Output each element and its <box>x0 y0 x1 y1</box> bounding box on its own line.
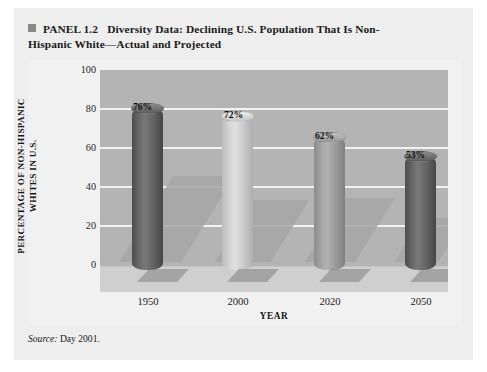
y-tick-100: 100 <box>70 64 96 75</box>
y-axis-ticks: 100 80 60 40 20 0 <box>64 70 96 292</box>
x-tick-2050: 2050 <box>391 296 451 307</box>
panel-number: PANEL 1.2 <box>43 23 98 35</box>
source-value: Day 2001. <box>57 333 99 344</box>
data-label-2000: 72% <box>224 109 243 120</box>
y-tick-40: 40 <box>70 181 96 192</box>
caption-line-1: Diversity Data: Declining U.S. Populatio… <box>107 23 380 35</box>
bar-2020[interactable] <box>314 137 345 270</box>
chart-figure: PERCENTAGE OF NON-HISPANIC WHITES IN U.S… <box>28 60 462 325</box>
data-label-2020: 62% <box>315 130 334 141</box>
source-note: Source: Day 2001. <box>28 333 100 344</box>
filled-square-icon <box>28 24 36 32</box>
panel-caption: PANEL 1.2Diversity Data: Declining U.S. … <box>28 22 462 52</box>
y-tick-60: 60 <box>70 142 96 153</box>
y-axis-title-line-2: WHITES IN U.S. <box>28 140 38 213</box>
data-label-1950: 76% <box>133 101 152 112</box>
caption-line-2: Hispanic White—Actual and Projected <box>28 38 221 50</box>
y-tick-0: 0 <box>70 259 96 270</box>
x-tick-2020: 2020 <box>300 296 360 307</box>
x-axis-title: YEAR <box>100 311 448 321</box>
y-tick-80: 80 <box>70 103 96 114</box>
panel-container: PANEL 1.2Diversity Data: Declining U.S. … <box>14 8 473 360</box>
bar-2050[interactable] <box>405 156 436 270</box>
y-axis-title: PERCENTAGE OF NON-HISPANIC WHITES IN U.S… <box>16 76 38 276</box>
y-axis-title-line-1: PERCENTAGE OF NON-HISPANIC <box>16 98 26 253</box>
x-axis-ticks: 1950 2000 2020 2050 <box>100 296 448 312</box>
bar-1950[interactable] <box>132 108 163 270</box>
x-tick-1950: 1950 <box>118 296 178 307</box>
x-tick-2000: 2000 <box>208 296 268 307</box>
source-label: Source: <box>28 333 57 344</box>
bar-2000[interactable] <box>222 116 253 270</box>
data-label-2050: 53% <box>406 149 425 160</box>
plot-area: 76% 72% 62% 53% <box>100 70 448 292</box>
y-tick-20: 20 <box>70 220 96 231</box>
